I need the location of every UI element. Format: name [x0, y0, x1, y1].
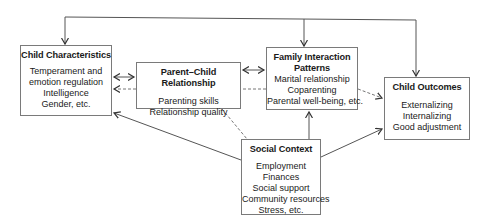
node-title-line2: Patterns: [267, 63, 357, 74]
node-item: Gender, etc.: [21, 99, 111, 110]
node-item: Relationship quality: [137, 107, 240, 118]
node-title: Parent–Child Relationship: [137, 67, 240, 89]
node-parent-child-relationship: Parent–Child Relationship Parenting skil…: [136, 62, 241, 109]
node-item: Social support: [242, 183, 320, 194]
node-item: Finances: [242, 172, 320, 183]
node-child-outcomes: Child Outcomes Externalizing Internalizi…: [384, 77, 470, 140]
node-social-context: Social Context Employment Finances Socia…: [241, 139, 321, 215]
node-title: Child Outcomes: [385, 82, 469, 93]
top-bus-line: [65, 17, 416, 20]
node-item: Externalizing: [385, 100, 469, 111]
node-item: Internalizing: [385, 111, 469, 122]
node-item: Community resources: [242, 194, 320, 205]
node-item: Parenting skills: [137, 96, 240, 107]
node-item: Good adjustment: [385, 122, 469, 133]
node-item: emotion regulation: [21, 77, 111, 88]
edge-social-to-child-outcomes: [321, 129, 382, 157]
node-title: Social Context: [242, 144, 320, 155]
node-title: Child Characteristics: [21, 50, 111, 61]
node-item: Temperament and: [21, 66, 111, 77]
node-item: Employment: [242, 161, 320, 172]
node-title-line1: Family Interaction: [267, 52, 357, 63]
node-child-characteristics: Child Characteristics Temperament and em…: [20, 45, 112, 116]
node-family-interaction-patterns: Family Interaction Patterns Marital rela…: [266, 47, 358, 110]
node-item: Stress, etc.: [242, 205, 320, 216]
node-item: Marital relationship: [267, 74, 357, 85]
node-item: Parental well-being, etc.: [267, 96, 357, 107]
node-item: Intelligence: [21, 88, 111, 99]
edge-social-to-child-characteristics: [114, 113, 241, 160]
node-item: Coparenting: [267, 85, 357, 96]
